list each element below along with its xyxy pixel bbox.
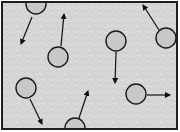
container-background <box>2 2 177 129</box>
particle-circle-icon <box>126 84 146 104</box>
gas-particles-diagram <box>0 0 180 132</box>
particle-circle-icon <box>48 47 68 67</box>
particle-circle-icon <box>156 28 176 48</box>
diagram-stage <box>0 0 180 132</box>
particle-circle-icon <box>16 78 36 98</box>
particle-circle-icon <box>106 31 126 51</box>
